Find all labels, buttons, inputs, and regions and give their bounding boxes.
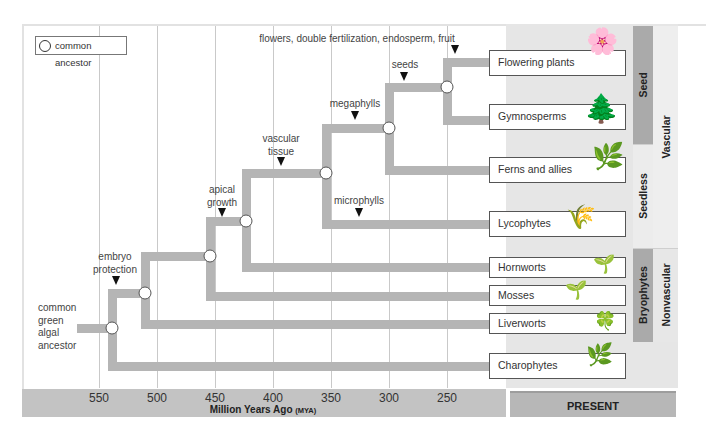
tick-550: 550 (89, 391, 109, 405)
branch-liverworts (141, 320, 490, 329)
taxon-label: Liverworts (498, 317, 546, 329)
branch-stomata (141, 252, 213, 261)
branch-mosses (206, 292, 490, 301)
axis-unit: (MYA) (295, 406, 316, 415)
branch-charophytes (108, 362, 490, 371)
trait-seeds: seeds (392, 58, 419, 71)
clade-label-vascular: Vascular (653, 26, 678, 248)
tick-300: 300 (379, 391, 399, 405)
gridline-550 (99, 26, 100, 388)
trait-vascular-tissue: vascular tissue (262, 132, 299, 158)
trait-apical-growth: apical growth (207, 183, 237, 209)
fern-icon: 🌿 (592, 143, 624, 169)
branch-hornworts (242, 263, 490, 272)
clade-label-nonvascular: Nonvascular (653, 248, 678, 342)
arrow-down-icon (277, 157, 285, 166)
branch-gymnosperms (443, 116, 490, 125)
arrow-down-icon (400, 72, 408, 81)
clade-label-bryophytes: Bryophytes (633, 248, 653, 342)
node-euphyllophytes (383, 122, 396, 135)
legend-label: common ancestor (55, 40, 91, 68)
present-label: PRESENT (510, 391, 676, 417)
gridline-350 (331, 26, 332, 388)
gridline-300 (389, 26, 390, 388)
flowering-plant-icon: 🌸 (586, 28, 618, 54)
root-ancestor-label: common green algal ancestor (38, 302, 76, 352)
node-vascular-plants (320, 167, 333, 180)
taxon-label: Charophytes (498, 359, 558, 371)
taxon-mosses: Mosses (489, 285, 626, 306)
branch-vascular (242, 169, 328, 178)
gridline-500 (157, 26, 158, 388)
legend: common ancestor (35, 36, 127, 55)
taxon-label: Hornworts (498, 261, 546, 273)
charophyte-alga-icon: 🌿 (586, 344, 613, 366)
arrow-down-icon (355, 208, 363, 217)
pine-cone-icon: 🌲 (584, 95, 619, 123)
tick-450: 450 (205, 391, 225, 405)
axis-title-text: Million Years Ago (210, 404, 293, 415)
tick-400: 400 (263, 391, 283, 405)
liverwort-icon: 🍀 (594, 312, 616, 330)
branch-ferns (385, 166, 490, 175)
tick-500: 500 (147, 391, 167, 405)
tick-250: 250 (437, 391, 457, 405)
taxon-label: Lycophytes (498, 217, 551, 229)
clade-label-seed: Seed (633, 26, 653, 144)
branch-seeds (385, 83, 449, 92)
gridline-400 (273, 26, 274, 388)
taxon-label: Mosses (498, 289, 534, 301)
lycophyte-icon: 🌾 (566, 205, 596, 229)
taxon-label: Flowering plants (498, 56, 574, 68)
branch-flowering-plants (443, 58, 490, 67)
node-hornworts-split (240, 215, 253, 228)
trait-embryo-protection: embryo protection (93, 250, 137, 276)
trait-microphylls: microphylls (334, 194, 384, 207)
node-seed-plants (441, 81, 454, 94)
arrow-down-icon (218, 208, 226, 217)
arrow-down-icon (451, 45, 459, 54)
node-mosses-split (204, 250, 217, 263)
branch-megaphylls (322, 124, 390, 133)
taxon-lycophytes: Lycophytes (489, 211, 626, 237)
taxon-label: Ferns and allies (498, 163, 572, 175)
trait-flowers: flowers, double fertilization, endosperm… (259, 32, 455, 45)
taxon-label: Gymnosperms (498, 110, 566, 122)
clade-label-seedless: Seedless (633, 144, 653, 248)
node-common-ancestor-root (106, 322, 119, 335)
trait-megaphylls: megaphylls (330, 97, 381, 110)
common-ancestor-circle-icon (39, 40, 51, 52)
arrow-down-icon (112, 276, 120, 285)
arrow-down-icon (351, 111, 359, 120)
moss-icon: 🌱 (565, 281, 587, 299)
axis-title: Million Years Ago (MYA) (0, 404, 506, 415)
branch-lycophytes (322, 220, 490, 229)
node-land-plants (139, 287, 152, 300)
hornwort-icon: 🌱 (593, 255, 615, 273)
tick-350: 350 (321, 391, 341, 405)
